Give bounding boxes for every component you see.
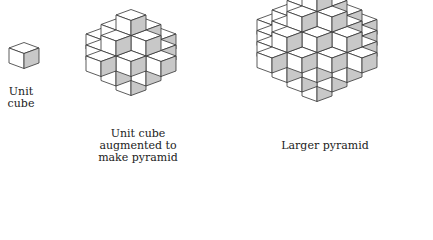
- label-unit-cube: Unit cube: [0, 86, 42, 110]
- label-small-pyramid: Unit cube augmented to make pyramid: [88, 128, 188, 164]
- label-larger-pyramid: Larger pyramid: [270, 140, 380, 152]
